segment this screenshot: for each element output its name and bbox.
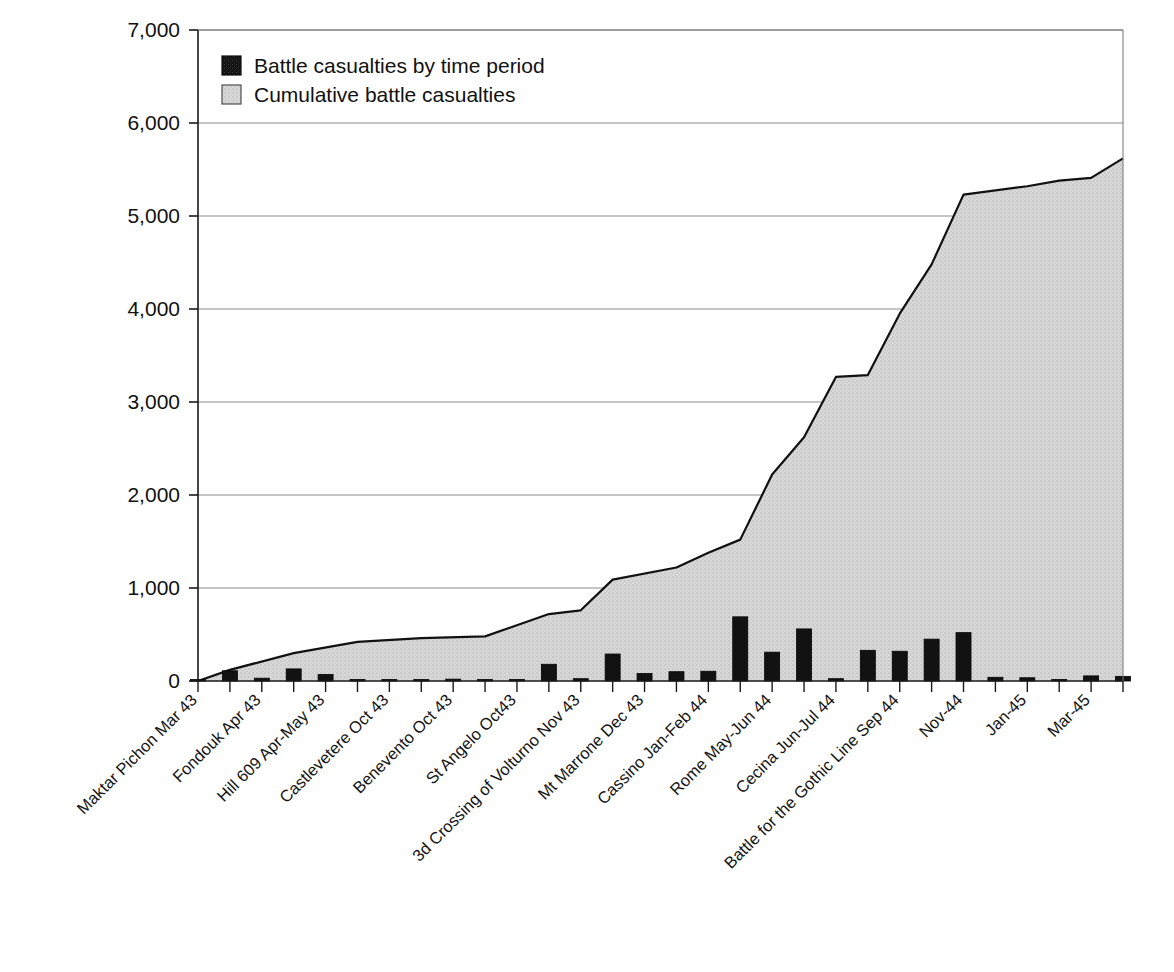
y-axis-tick-labels: 01,0002,0003,0004,0005,0006,0007,000 <box>127 18 180 692</box>
y-axis-ticks <box>189 30 198 681</box>
bar <box>286 669 301 681</box>
bar <box>765 652 780 681</box>
legend-label-battle-casualties: Battle casualties by time period <box>254 54 545 77</box>
x-tick-label: Cassino Jan-Feb 44 <box>593 690 710 807</box>
legend-swatch-battle-casualties <box>222 56 241 75</box>
x-axis-ticks <box>198 681 1123 692</box>
y-tick-label: 2,000 <box>127 483 180 506</box>
bar <box>605 654 620 681</box>
y-tick-label: 0 <box>168 669 180 692</box>
bar <box>860 650 875 681</box>
x-tick-label: Hill 609 Apr-May 43 <box>213 690 328 805</box>
x-tick-label: Nov-44 <box>915 690 965 740</box>
x-tick-label: Castlevetere Oct 43 <box>276 690 392 806</box>
bar <box>222 671 237 681</box>
bar <box>956 633 971 681</box>
bar <box>733 617 748 681</box>
bar <box>318 674 333 681</box>
bar <box>701 671 716 681</box>
y-tick-label: 4,000 <box>127 297 180 320</box>
y-tick-label: 6,000 <box>127 111 180 134</box>
bar <box>892 651 907 681</box>
bar <box>637 674 652 681</box>
y-tick-label: 5,000 <box>127 204 180 227</box>
chart-container: 01,0002,0003,0004,0005,0006,0007,000 Mak… <box>0 0 1174 972</box>
legend-label-cumulative: Cumulative battle casualties <box>254 83 515 106</box>
bar <box>669 672 684 681</box>
x-tick-label: Mar-45 <box>1044 690 1094 740</box>
x-tick-label: Maktar Pichon Mar 43 <box>73 690 200 817</box>
x-tick-label: Jan-45 <box>981 690 1029 738</box>
casualties-chart: 01,0002,0003,0004,0005,0006,0007,000 Mak… <box>0 0 1174 972</box>
y-tick-label: 3,000 <box>127 390 180 413</box>
y-tick-label: 7,000 <box>127 18 180 41</box>
y-tick-label: 1,000 <box>127 576 180 599</box>
x-axis-tick-labels: Maktar Pichon Mar 43Fondouk Apr 43Hill 6… <box>73 690 1093 871</box>
bar <box>541 664 556 681</box>
bar <box>797 629 812 681</box>
bar <box>924 639 939 681</box>
legend-swatch-cumulative <box>222 85 241 104</box>
x-tick-label: Mt Marrone Dec 43 <box>534 690 647 803</box>
